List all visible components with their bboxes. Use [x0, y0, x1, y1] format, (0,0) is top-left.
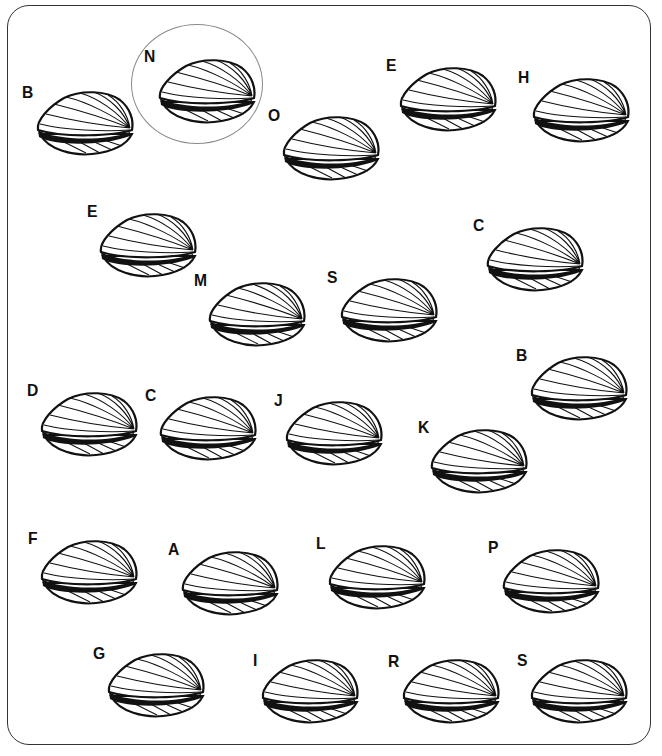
clam-letter-label: B	[516, 347, 527, 364]
clam-letter-label: S	[327, 269, 337, 286]
clam-icon	[338, 277, 442, 343]
clam-letter-label: E	[87, 203, 97, 220]
clam-letter-label: J	[274, 392, 283, 409]
clam-icon	[179, 550, 283, 616]
clam-icon	[428, 428, 532, 494]
clam-letter-label: L	[316, 535, 326, 552]
clam-shell-p[interactable]	[500, 548, 604, 614]
clam-shell-s[interactable]	[338, 277, 442, 343]
clam-shell-r[interactable]	[400, 658, 504, 724]
clam-letter-label: S	[517, 652, 527, 669]
clam-icon	[259, 658, 363, 724]
clam-letter-label: E	[386, 57, 396, 74]
clam-icon	[38, 539, 142, 605]
clam-icon	[38, 391, 142, 457]
clam-shell-j[interactable]	[283, 400, 387, 466]
clam-letter-label: F	[28, 530, 38, 547]
clam-icon	[280, 115, 384, 181]
clam-icon	[157, 395, 261, 461]
clam-shell-n[interactable]	[156, 58, 260, 124]
clam-letter-label: P	[488, 539, 498, 556]
clam-letter-label: R	[388, 653, 399, 670]
clam-shell-o[interactable]	[280, 115, 384, 181]
clam-shell-b[interactable]	[34, 90, 138, 156]
clam-shell-e[interactable]	[97, 212, 201, 278]
clam-letter-label: A	[168, 541, 179, 558]
clam-letter-label: B	[22, 84, 33, 101]
clam-shell-b[interactable]	[528, 355, 632, 421]
clam-shell-i[interactable]	[259, 658, 363, 724]
clam-icon	[528, 355, 632, 421]
clam-icon	[397, 66, 501, 132]
clam-letter-label: G	[93, 645, 105, 662]
clam-shell-e[interactable]	[397, 66, 501, 132]
clam-letter-label: C	[473, 217, 484, 234]
clam-letter-label: I	[253, 652, 257, 669]
clam-icon	[500, 548, 604, 614]
clam-icon	[326, 544, 430, 610]
clam-icon	[97, 212, 201, 278]
clam-icon	[484, 226, 588, 292]
clam-icon	[156, 58, 260, 124]
clam-letter-label: O	[268, 107, 280, 124]
clam-icon	[206, 281, 310, 347]
clam-icon	[105, 652, 209, 718]
clam-letter-label: N	[144, 48, 155, 65]
clam-icon	[283, 400, 387, 466]
clam-shell-c[interactable]	[484, 226, 588, 292]
clam-icon	[530, 77, 634, 143]
clam-shell-c[interactable]	[157, 395, 261, 461]
clam-letter-label: C	[145, 387, 156, 404]
clam-shell-a[interactable]	[179, 550, 283, 616]
clam-shell-k[interactable]	[428, 428, 532, 494]
clam-shell-f[interactable]	[38, 539, 142, 605]
clam-letter-label: D	[27, 382, 38, 399]
clam-shell-g[interactable]	[105, 652, 209, 718]
clam-shell-l[interactable]	[326, 544, 430, 610]
clam-shell-s[interactable]	[528, 658, 632, 724]
clam-shell-d[interactable]	[38, 391, 142, 457]
clam-shell-h[interactable]	[530, 77, 634, 143]
clam-shell-m[interactable]	[206, 281, 310, 347]
clam-letter-label: H	[518, 69, 529, 86]
clam-icon	[528, 658, 632, 724]
clam-icon	[34, 90, 138, 156]
clam-icon	[400, 658, 504, 724]
